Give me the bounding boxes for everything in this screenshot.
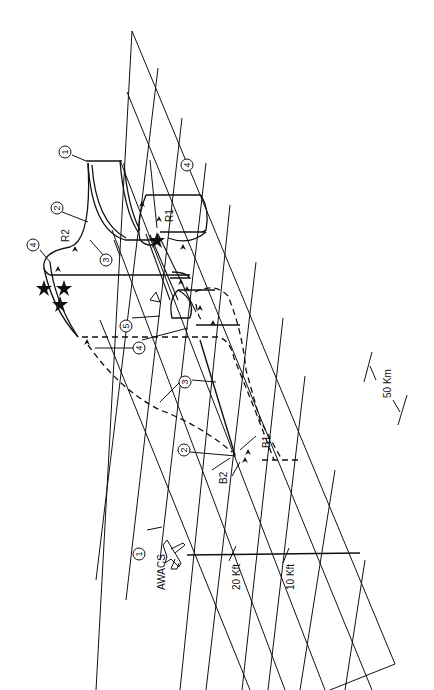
callout-2-b: 2 bbox=[178, 444, 190, 456]
tactical-scenario-diagram: 1 1 2 3 4 4 5 4 bbox=[0, 0, 434, 690]
text-labels: AWACS 20 Kft 10 Kft 50 Km R1 R2 B1 B2 bbox=[60, 209, 393, 590]
aircraft-icon bbox=[84, 339, 90, 345]
aircraft-icon bbox=[197, 305, 203, 311]
distance-50km-label: 50 Km bbox=[382, 369, 393, 398]
missile-tracks bbox=[150, 292, 160, 302]
callout-2-r2: 2 bbox=[51, 202, 63, 214]
aircraft-icon bbox=[72, 246, 78, 252]
svg-text:4: 4 bbox=[28, 242, 38, 247]
awacs-altitude-line bbox=[187, 546, 360, 563]
callout-3-b: 3 bbox=[179, 376, 191, 388]
aircraft-icon bbox=[178, 279, 184, 285]
callout-4-mid: 4 bbox=[133, 342, 145, 354]
r1-label: R1 bbox=[164, 209, 175, 222]
callout-1-r2: 1 bbox=[59, 146, 71, 158]
callout-5: 5 bbox=[120, 320, 132, 332]
callout-1-awacs: 1 bbox=[133, 548, 145, 560]
svg-text:2: 2 bbox=[52, 205, 62, 210]
svg-text:4: 4 bbox=[182, 162, 192, 167]
aircraft-icon bbox=[180, 244, 186, 250]
callout-3-r2: 3 bbox=[100, 254, 112, 266]
aircraft-icon bbox=[242, 457, 248, 463]
callouts: 1 1 2 3 4 4 5 4 bbox=[27, 146, 193, 560]
b1-label: B1 bbox=[261, 435, 272, 448]
svg-text:1: 1 bbox=[134, 551, 144, 556]
aircraft-icon bbox=[156, 216, 162, 222]
star-icon bbox=[56, 280, 72, 296]
awacs-label: AWACS bbox=[156, 554, 167, 590]
altitude-20kft-label: 20 Kft bbox=[231, 564, 242, 590]
svg-text:5: 5 bbox=[121, 323, 131, 328]
svg-text:4: 4 bbox=[134, 345, 144, 350]
svg-text:3: 3 bbox=[180, 379, 190, 384]
svg-text:2: 2 bbox=[179, 447, 189, 452]
svg-text:1: 1 bbox=[60, 149, 70, 154]
aircraft-icon bbox=[55, 266, 61, 272]
svg-text:3: 3 bbox=[101, 257, 111, 262]
star-icon bbox=[52, 296, 68, 312]
aircraft-icon bbox=[245, 449, 251, 455]
callout-4-r2: 4 bbox=[27, 239, 39, 251]
b2-label: B2 bbox=[218, 471, 229, 484]
altitude-10kft-label: 10 Kft bbox=[285, 564, 296, 590]
callout-4-r1: 4 bbox=[181, 159, 193, 171]
r2-label: R2 bbox=[60, 229, 71, 242]
